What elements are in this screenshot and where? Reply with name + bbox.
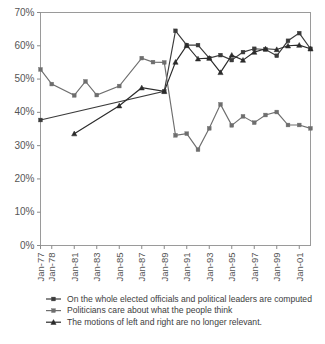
x-axis-ticks: Jan-77Jan-78Jan-81Jan-83Jan-85Jan-87Jan-… <box>35 246 305 282</box>
chart-legend: On the whole elected officials and polit… <box>46 294 312 327</box>
data-point-marker <box>52 297 56 301</box>
legend-item-label: Politicians care about what the people t… <box>67 305 233 315</box>
data-point-marker <box>174 133 178 137</box>
y-tick-label: 30% <box>14 140 34 151</box>
data-point-marker <box>264 113 268 117</box>
y-axis-ticks: 0%10%20%30%40%50%60%70% <box>14 7 40 251</box>
x-tick-label: Jan-97 <box>249 253 260 282</box>
x-tick-label: Jan-89 <box>159 253 170 282</box>
data-point-marker <box>230 123 234 127</box>
legend-item-1[interactable]: On the whole elected officials and polit… <box>46 294 312 304</box>
x-tick-label: Jan-93 <box>204 253 215 282</box>
legend-item-2[interactable]: Politicians care about what the people t… <box>46 305 233 315</box>
x-tick-label: Jan-83 <box>91 253 102 282</box>
data-point-marker <box>72 93 76 97</box>
data-point-marker <box>275 54 279 58</box>
data-point-marker <box>174 29 178 33</box>
y-tick-label: 60% <box>14 40 34 51</box>
legend-item-label: On the whole elected officials and polit… <box>67 294 312 304</box>
data-point-marker <box>230 58 234 62</box>
x-tick-label: Jan-01 <box>294 253 305 282</box>
data-point-marker <box>39 68 43 72</box>
data-point-marker <box>219 102 223 106</box>
data-point-marker <box>275 110 279 114</box>
y-tick-label: 20% <box>14 173 34 184</box>
data-point-marker <box>39 118 43 122</box>
data-point-marker <box>207 126 211 130</box>
data-point-marker <box>196 148 200 152</box>
data-point-marker <box>140 56 144 60</box>
data-point-marker <box>309 126 313 130</box>
data-point-marker <box>196 43 200 47</box>
line-chart: 0%10%20%30%40%50%60%70% Jan-77Jan-78Jan-… <box>0 0 325 344</box>
x-tick-label: Jan-85 <box>114 253 125 282</box>
data-point-marker <box>95 93 99 97</box>
x-tick-label: Jan-78 <box>46 253 57 282</box>
data-point-marker <box>252 121 256 125</box>
data-point-marker <box>297 31 301 35</box>
data-point-marker <box>219 53 223 57</box>
data-point-marker <box>162 61 166 65</box>
data-point-marker <box>297 123 301 127</box>
data-point-marker <box>117 84 121 88</box>
data-point-marker <box>52 309 56 313</box>
data-point-marker <box>286 123 290 127</box>
data-point-marker <box>241 50 245 54</box>
data-point-marker <box>151 60 155 64</box>
legend-item-3[interactable]: The motions of left and right are no lon… <box>46 317 262 327</box>
x-tick-label: Jan-81 <box>69 253 80 282</box>
x-tick-label: Jan-87 <box>136 253 147 282</box>
data-point-marker <box>286 39 290 43</box>
x-tick-label: Jan-99 <box>271 253 282 282</box>
chart-container: 0%10%20%30%40%50%60%70% Jan-77Jan-78Jan-… <box>0 0 325 344</box>
data-point-marker <box>241 114 245 118</box>
y-tick-label: 50% <box>14 73 34 84</box>
x-tick-label: Jan-91 <box>181 253 192 282</box>
x-tick-label: Jan-95 <box>226 253 237 282</box>
y-tick-label: 70% <box>14 7 34 18</box>
legend-item-label: The motions of left and right are no lon… <box>67 317 262 327</box>
y-tick-label: 40% <box>14 106 34 117</box>
y-tick-label: 0% <box>20 240 35 251</box>
data-point-marker <box>84 80 88 84</box>
y-tick-label: 10% <box>14 206 34 217</box>
x-tick-label: Jan-77 <box>35 253 46 282</box>
data-point-marker <box>185 132 189 136</box>
data-point-marker <box>50 82 54 86</box>
